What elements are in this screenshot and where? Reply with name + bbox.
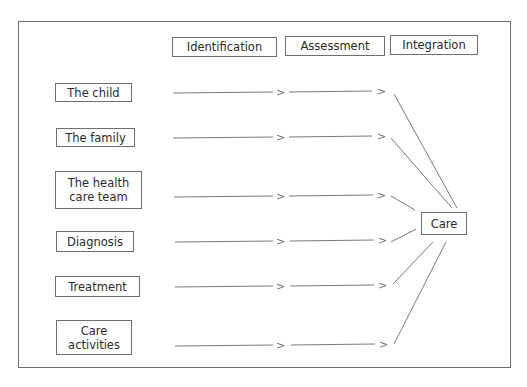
- input-label: Care activities: [68, 324, 120, 352]
- input-treatment: Treatment: [55, 276, 140, 297]
- input-care-activities: Care activities: [56, 320, 132, 355]
- input-diagnosis: Diagnosis: [56, 231, 134, 252]
- input-label: The family: [65, 131, 126, 145]
- input-the-child: The child: [55, 83, 132, 102]
- arrow-right-icon: >: [378, 280, 387, 291]
- arrow-right-icon: >: [276, 340, 285, 351]
- stage-integration: Integration: [390, 35, 478, 55]
- input-label: The child: [67, 86, 119, 100]
- arrow-right-icon: >: [377, 190, 386, 201]
- input-health-care-team: The health care team: [55, 171, 142, 209]
- arrow-right-icon: >: [378, 235, 387, 246]
- arrow-right-icon: >: [276, 281, 285, 292]
- arrow-right-icon: >: [276, 132, 285, 143]
- arrow-right-icon: >: [379, 339, 388, 350]
- arrow-right-icon: >: [377, 86, 386, 97]
- stage-assessment: Assessment: [285, 36, 385, 56]
- stage-label: Identification: [187, 40, 262, 54]
- arrow-right-icon: >: [377, 131, 386, 142]
- stage-identification: Identification: [172, 37, 277, 57]
- stage-label: Assessment: [301, 39, 370, 53]
- arrow-right-icon: >: [276, 236, 285, 247]
- output-care: Care: [421, 212, 467, 235]
- stage-label: Integration: [402, 38, 465, 52]
- output-label: Care: [431, 217, 458, 231]
- arrow-right-icon: >: [276, 191, 285, 202]
- arrow-right-icon: >: [276, 87, 285, 98]
- input-label: The health care team: [66, 176, 131, 204]
- input-the-family: The family: [56, 128, 135, 147]
- input-label: Diagnosis: [67, 235, 123, 249]
- input-label: Treatment: [68, 280, 127, 294]
